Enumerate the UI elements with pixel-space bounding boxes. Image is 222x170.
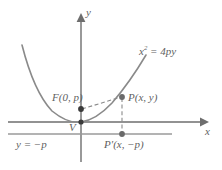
parabola-curve [22,45,146,122]
vertex-label: V [69,122,76,133]
focus-point [78,106,84,112]
point-p-prime-marker [119,131,125,137]
equation-rest: = 4py [147,45,176,57]
curve-equation-label: x2 = 4py [139,46,176,57]
directrix-label: y = −p [16,139,47,150]
parabola-figure: x2 = 4py y x F(0, p) P(x, y) V y = −p P′… [0,0,222,170]
focus-label: F(0, p) [52,92,83,103]
vertex-point [78,119,83,124]
x-axis-label: x [205,126,210,137]
x-axis [8,118,209,127]
point-p-label: P(x, y) [128,92,157,103]
y-axis-label: y [86,7,91,18]
point-p-marker [119,94,125,100]
y-axis [77,13,86,162]
focal-radius-dashed-line [82,97,121,109]
point-p-prime-label: P′(x, −p) [104,139,144,150]
